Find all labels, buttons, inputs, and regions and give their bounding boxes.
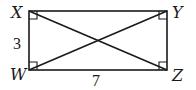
- vertex-label-x: X: [9, 3, 23, 22]
- side-label-xw: 3: [13, 35, 21, 52]
- side-label-wz: 7: [92, 72, 100, 89]
- vertex-label-w: W: [10, 65, 28, 84]
- vertex-label-z: Z: [171, 66, 184, 85]
- vertex-label-y: Y: [172, 3, 184, 22]
- rectangle-diagram: X Y W Z 3 7: [0, 0, 196, 90]
